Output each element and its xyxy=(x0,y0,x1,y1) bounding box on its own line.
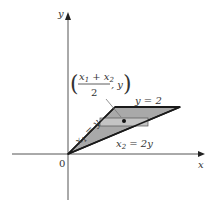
paren-open: ( xyxy=(70,71,79,96)
origin-label: 0 xyxy=(59,158,65,169)
label-y-equals-2: y = 2 xyxy=(134,95,162,106)
y-axis xyxy=(65,12,71,200)
x-axis xyxy=(12,151,205,157)
y-axis-label: y xyxy=(57,8,64,19)
label-x2-equals-2y: x2 = 2y xyxy=(116,138,153,151)
y-axis-arrow-icon xyxy=(65,12,71,20)
svg-text:x1 + x2: x1 + x2 xyxy=(79,71,115,84)
midpoint-dot xyxy=(122,119,126,123)
midpoint-y-coord: , y xyxy=(111,79,123,90)
paren-close: ) xyxy=(123,71,132,96)
double-integral-region-diagram: ( x1 + x2 2 , y ) y = 2 x1 = y x2 = 2y x… xyxy=(0,0,217,204)
midpoint-label: ( x1 + x2 2 , y ) xyxy=(70,71,132,98)
fraction-denominator: 2 xyxy=(91,87,97,98)
x-axis-arrow-icon xyxy=(198,151,205,157)
x-axis-label: x xyxy=(198,159,204,170)
